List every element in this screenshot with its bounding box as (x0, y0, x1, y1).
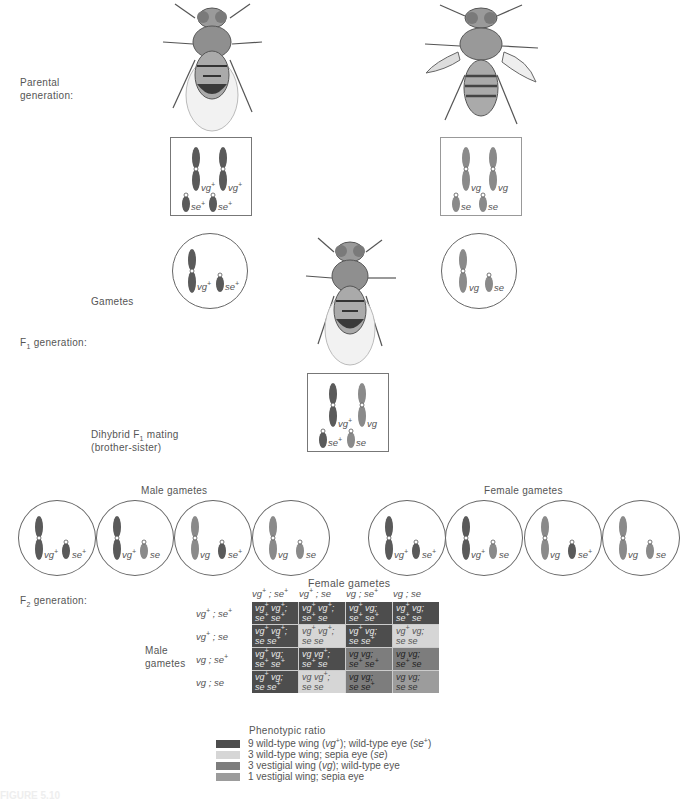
punnett-cell: vg+ vg+;se+ se (299, 602, 345, 624)
dihybrid-line1: Dihybrid F1 mating (91, 428, 179, 441)
punnett-cell: vg+ vg;se+ se (393, 602, 439, 624)
allele-vg: vg+ (122, 549, 136, 560)
punnett-col-header: vg ; se (393, 588, 421, 599)
punnett-cell: vg+ vg+;se se (299, 625, 345, 647)
punnett-square: vg+ vg+;se+ se+vg+ vg+;se+ sevg+ vg;se+ … (252, 602, 439, 693)
legend-text: 1 vestigial wing; sepia eye (248, 771, 364, 782)
female-gamete-3: vg se+ (524, 500, 602, 576)
chromosome-icon (19, 501, 95, 575)
allele-se: se (150, 549, 160, 560)
legend-item: 9 wild-type wing (vg+); wild-type eye (s… (216, 738, 431, 749)
punnett-col-header: vg+ ; se (299, 588, 331, 599)
legend-swatch (216, 762, 240, 770)
allele-se-plus: se+ (218, 201, 232, 212)
allele-vg-plus: vg+ (338, 418, 352, 429)
allele-vg: vg (550, 549, 560, 560)
female-gamete-4: vg se (602, 500, 680, 576)
dihybrid-line2: (brother-sister) (91, 441, 179, 454)
punnett-row-header: vg ; se (196, 677, 224, 688)
chromosome-icon (525, 501, 601, 575)
gametes-label: Gametes (91, 295, 134, 308)
wild-type-fly-icon (155, 0, 270, 132)
chromosome-icon (369, 501, 445, 575)
allele-se: se+ (72, 549, 86, 560)
figure-caption-partial: FIGURE 5.10 (0, 790, 60, 801)
f1-wild-type-fly-icon (296, 234, 404, 366)
allele-se-plus: se+ (328, 437, 342, 448)
allele-vg: vg+ (471, 549, 485, 560)
chromosome-icon (441, 138, 521, 215)
parental-line1: Parental (20, 76, 73, 89)
allele-vg: vg (278, 549, 288, 560)
legend-item: 3 wild-type wing; sepia eye (se) (216, 749, 431, 760)
allele-vg: vg (471, 182, 481, 193)
parental-vestigial-genotype-box: vg vg se se (440, 137, 522, 216)
male-gamete-3: vg se+ (174, 500, 252, 576)
legend-text: 3 vestigial wing (vg); wild-type eye (248, 760, 400, 771)
allele-vg: vg+ (44, 549, 58, 560)
parental-gamete-vestigial: vg se (441, 233, 517, 309)
legend-swatch (216, 740, 240, 748)
allele-se: se (461, 201, 471, 212)
punnett-cell: vg+ vg+;se se+ (252, 625, 298, 647)
vestigial-fly-icon (420, 0, 542, 128)
punnett-cell: vg+ vg;se se (393, 625, 439, 647)
parental-gamete-wild-type: vg+ se+ (172, 233, 248, 309)
legend-title: Phenotypic ratio (249, 724, 326, 737)
chromosome-icon (175, 501, 251, 575)
punnett-row-headers: vg+ ; se+vg+ ; sevg ; se+vg ; se (196, 602, 252, 694)
allele-vg: vg (200, 549, 210, 560)
female-gamete-2: vg+ se (445, 500, 523, 576)
f1-generation-label: F1 generation: (20, 336, 87, 349)
f2-suffix: generation: (31, 595, 87, 606)
allele-se-plus: se+ (191, 201, 205, 212)
punnett-col-header: vg+ ; se+ (252, 588, 288, 599)
f1-suffix: generation: (31, 337, 87, 348)
male-gamete-4: vg se (252, 500, 330, 576)
punnett-cell: vg+ vg;se se+ (252, 671, 298, 693)
punnett-cell: vg+ vg;se+ se+ (252, 648, 298, 670)
allele-vg-plus: vg+ (201, 182, 215, 193)
f1-genotype-box: vg+ vg se+ se (307, 373, 389, 452)
punnett-cell: vg vg;se se (393, 671, 439, 693)
female-gamete-1: vg+ se+ (368, 500, 446, 576)
parental-wild-type-genotype-box: vg+ vg+ se+ se+ (170, 137, 252, 216)
allele-vg-plus: vg+ (228, 182, 242, 193)
punnett-cell: vg+ vg;se+ se+ (346, 602, 392, 624)
punnett-row-header: vg ; se+ (196, 654, 228, 665)
f2-generation-label: F2 generation: (20, 594, 87, 607)
dihybrid-prefix: Dihybrid F (91, 429, 140, 440)
legend-swatch (216, 751, 240, 759)
parental-generation-label: Parental generation: (20, 76, 73, 102)
punnett-cell: vg+ vg+;se+ se+ (252, 602, 298, 624)
allele-se: se+ (422, 549, 436, 560)
dihybrid-suffix: mating (144, 429, 179, 440)
legend-text: 3 wild-type wing; sepia eye (se) (248, 749, 388, 760)
allele-vg: vg+ (394, 549, 408, 560)
chromosome-icon (308, 374, 388, 451)
legend-item: 3 vestigial wing (vg); wild-type eye (216, 760, 431, 771)
chromosome-icon (253, 501, 329, 575)
legend-item: 1 vestigial wing; sepia eye (216, 771, 431, 782)
chromosome-icon (173, 234, 247, 308)
allele-vg: vg (469, 282, 479, 293)
chromosome-icon (442, 234, 516, 308)
punnett-column-headers: vg+ ; se+vg+ ; sevg ; se+vg ; se (252, 588, 442, 601)
allele-se: se (488, 201, 498, 212)
male-gamete-2: vg+ se (96, 500, 174, 576)
phenotypic-ratio-legend: 9 wild-type wing (vg+); wild-type eye (s… (216, 738, 431, 782)
legend-text: 9 wild-type wing (vg+); wild-type eye (s… (248, 738, 431, 749)
punnett-cell: vg vg+;se se (299, 671, 345, 693)
female-gametes-label: Female gametes (484, 484, 563, 497)
male-header-line1: Male (145, 644, 185, 657)
male-gametes-label: Male gametes (141, 484, 207, 497)
chromosome-icon (171, 138, 251, 215)
allele-se: se (499, 549, 509, 560)
punnett-row-header: vg+ ; se+ (196, 608, 232, 619)
allele-se: se+ (228, 549, 242, 560)
punnett-cell: vg+ vg;se se+ (346, 625, 392, 647)
allele-vg: vg (628, 549, 638, 560)
punnett-col-header: vg ; se+ (346, 588, 378, 599)
allele-se-plus: se+ (225, 281, 239, 292)
dihybrid-mating-label: Dihybrid F1 mating (brother-sister) (91, 428, 179, 454)
